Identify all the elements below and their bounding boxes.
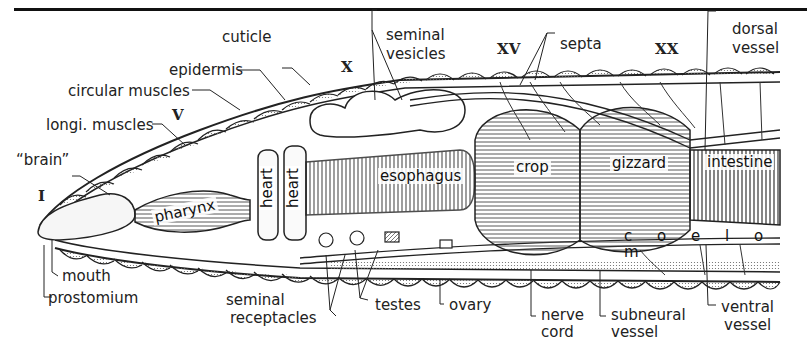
label-longi-muscles: longi. muscles <box>46 117 153 133</box>
segment-marker-xv: XV <box>497 40 520 58</box>
label-esophagus: esophagus <box>378 168 463 184</box>
label-nerve-cord-line2: cord <box>541 324 574 340</box>
label-brain: “brain” <box>16 152 69 168</box>
label-circular-muscles: circular muscles <box>68 83 190 99</box>
label-seminal-receptacles-line2: receptacles <box>230 310 317 326</box>
label-epidermis: epidermis <box>169 62 243 78</box>
label-cuticle: cuticle <box>222 29 271 45</box>
segment-marker-xx: XX <box>655 40 678 58</box>
label-heart-1: heart <box>259 166 275 210</box>
label-subneural-vessel-line2: vessel <box>611 324 658 340</box>
label-coelom: c o e l o m <box>622 228 807 260</box>
segment-marker-x: X <box>341 58 353 76</box>
label-gizzard: gizzard <box>610 155 668 171</box>
label-intestine: intestine <box>705 154 774 170</box>
label-nerve-cord-line1: nerve <box>541 307 584 323</box>
label-heart-2: heart <box>285 166 301 210</box>
label-septa: septa <box>560 36 602 52</box>
label-ventral-vessel-line2: vessel <box>724 317 771 333</box>
label-testes: testes <box>375 297 421 313</box>
label-ovary: ovary <box>449 297 491 313</box>
label-dorsal-vessel-line1: dorsal <box>732 21 778 37</box>
label-seminal-vesicles-line1: seminal <box>386 27 445 43</box>
label-seminal-receptacles-line1: seminal <box>226 292 285 308</box>
label-subneural-vessel-line1: subneural <box>611 307 686 323</box>
segment-marker-i: I <box>38 187 45 205</box>
label-ventral-vessel-line1: ventral <box>721 299 774 315</box>
label-seminal-vesicles-line2: vesicles <box>386 46 446 62</box>
label-mouth: mouth <box>62 268 111 284</box>
segment-marker-v: V <box>172 106 184 124</box>
label-prostomium: prostomium <box>48 290 138 306</box>
label-dorsal-vessel-line2: vessel <box>732 40 779 56</box>
label-crop: crop <box>514 159 551 175</box>
